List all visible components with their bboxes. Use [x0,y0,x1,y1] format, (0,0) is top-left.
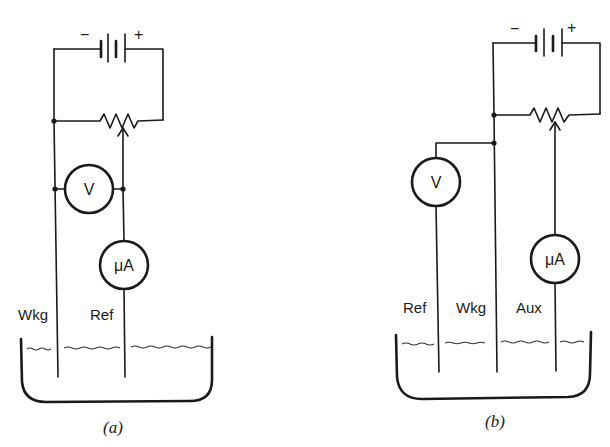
battery-minus-sign: − [80,26,89,43]
panel-a: − + V μA Wkg Ref [18,26,212,437]
beaker-b [396,332,591,399]
electrode-label-wkg: Wkg [18,306,48,323]
microammeter-label: μA [114,257,134,274]
electrochemical-cell-diagram: − + V μA Wkg Ref [0,0,610,447]
battery-b: − + [493,19,600,114]
battery-plus-sign: + [567,19,576,36]
voltmeter-a: V [55,165,123,213]
electrode-label-wkg: Wkg [456,299,486,316]
electrode-label-aux: Aux [516,299,542,316]
caption-a: (a) [103,418,123,437]
electrode-label-ref: Ref [90,306,114,323]
caption-b: (b) [485,412,505,431]
panel-b: − + V μA Ref Wkg Aux [396,19,600,431]
beaker-a [21,337,212,402]
microammeter-label: μA [545,251,565,268]
voltmeter-label: V [84,181,95,198]
electrode-label-ref: Ref [403,299,427,316]
battery-a: − + [54,26,163,120]
junction-node [51,118,56,123]
battery-minus-sign: − [510,20,519,37]
junction-node [491,112,496,117]
voltmeter-label: V [431,174,442,191]
potentiometer-b [494,108,600,235]
voltmeter-b: V [412,143,494,372]
battery-plus-sign: + [134,26,143,43]
